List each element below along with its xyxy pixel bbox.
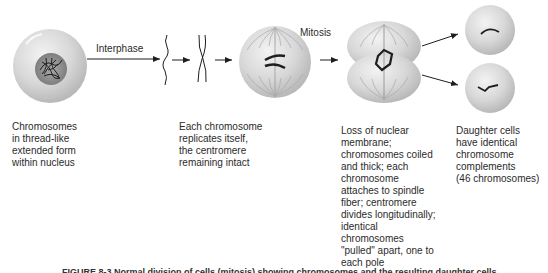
description-stage-3: Loss of nuclear membrane; chromosomes co…	[341, 125, 436, 269]
nucleus-icon	[35, 53, 67, 85]
single-chromosome-icon	[163, 35, 168, 85]
description-stage-2: Each chromosome replicates itself, the c…	[179, 121, 262, 169]
replicated-chromosome-icon	[198, 35, 206, 82]
description-stage-1: Chromosomes in thread-like extended form…	[12, 121, 77, 169]
interphase-label: Interphase	[96, 43, 143, 54]
dividing-cell	[347, 21, 421, 103]
daughter-arrow-bottom	[422, 75, 458, 85]
figure-caption: FIGURE 8-3 Normal division of cells (mit…	[62, 266, 497, 273]
daughter-arrow-top	[422, 34, 458, 46]
cell-with-nucleus	[13, 29, 87, 103]
description-stage-4: Daughter cells have identical chromosome…	[456, 125, 539, 185]
daughter-cell-top	[465, 5, 515, 55]
daughter-cell-bottom	[465, 63, 515, 113]
mitosis-label: Mitosis	[300, 27, 331, 38]
